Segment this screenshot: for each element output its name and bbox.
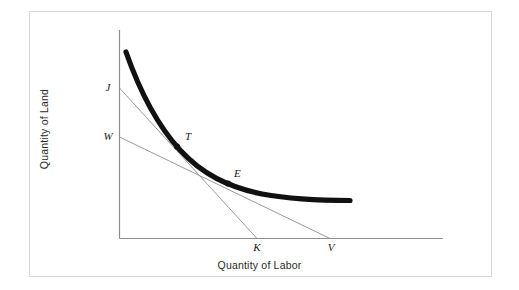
tangency-point-e xyxy=(225,180,231,186)
label-t: T xyxy=(185,130,192,142)
x-axis-title: Quantity of Labor xyxy=(0,259,519,271)
label-j: J xyxy=(106,81,112,93)
tangency-point-t xyxy=(174,143,180,149)
label-v: V xyxy=(328,241,336,253)
y-axis-title: Quantity of Land xyxy=(38,39,50,219)
label-e: E xyxy=(233,167,241,179)
label-k: K xyxy=(252,241,261,253)
isocost-line-jk xyxy=(120,88,258,239)
chart-canvas: J W T E K V xyxy=(0,0,519,290)
figure-root: J W T E K V Quantity of Labor Quantity o… xyxy=(0,0,519,290)
isocost-line-wv xyxy=(120,137,331,239)
label-w: W xyxy=(103,130,113,142)
